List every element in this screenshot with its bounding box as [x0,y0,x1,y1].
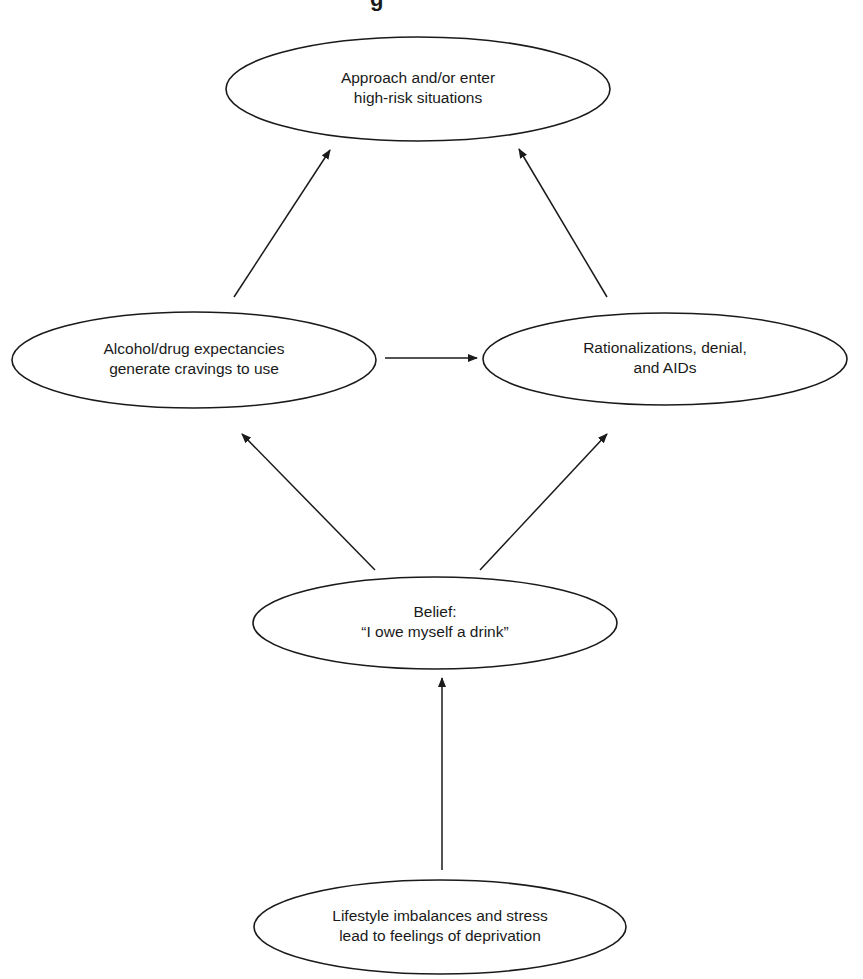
arrow-rationalizations-to-high-risk [519,149,607,297]
node-high-risk-label: Approach and/or enter high-risk situatio… [268,68,568,108]
node-rationalizations-label: Rationalizations, denial, and AIDs [515,338,815,378]
node-expectancies-line-1: Alcohol/drug expectancies [44,339,344,359]
node-high-risk-line-1: Approach and/or enter [268,68,568,88]
node-lifestyle-label: Lifestyle imbalances and stress lead to … [290,906,590,946]
node-lifestyle-line-1: Lifestyle imbalances and stress [290,906,590,926]
node-expectancies-label: Alcohol/drug expectancies generate cravi… [44,339,344,379]
node-belief-label: Belief: “I owe myself a drink” [285,602,585,642]
node-high-risk-line-2: high-risk situations [268,88,568,108]
node-lifestyle-line-2: lead to feelings of deprivation [290,926,590,946]
arrow-belief-to-rationalizations [480,434,607,570]
arrow-belief-to-expectancies [242,434,375,570]
node-belief-line-2: “I owe myself a drink” [285,622,585,642]
node-belief-line-1: Belief: [285,602,585,622]
node-rationalizations-line-1: Rationalizations, denial, [515,338,815,358]
node-rationalizations-line-2: and AIDs [515,358,815,378]
diagram-canvas [0,0,863,979]
arrow-expectancies-to-high-risk [234,150,330,297]
node-expectancies-line-2: generate cravings to use [44,359,344,379]
